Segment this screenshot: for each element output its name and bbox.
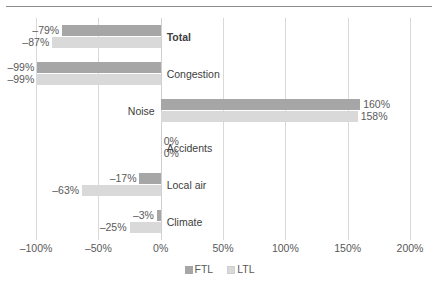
gridline (285, 18, 286, 240)
x-tick-label: 200% (397, 242, 424, 254)
x-axis: –100%–50%0%50%100%150%200% (36, 242, 410, 258)
value-label: –87% (22, 37, 52, 48)
value-label: –79% (32, 25, 62, 36)
value-label: 158% (358, 111, 388, 122)
x-tick-label: 150% (334, 242, 361, 254)
bar-ftl (139, 173, 160, 184)
x-tick-label: 100% (272, 242, 299, 254)
legend-item-ltl[interactable]: LTL (227, 263, 254, 275)
legend-label: LTL (237, 263, 254, 275)
chart-legend: FTLLTL (0, 263, 439, 275)
value-label: –63% (52, 185, 82, 196)
value-label: –3% (133, 210, 157, 221)
value-label: –99% (7, 74, 37, 85)
bar-ftl (161, 99, 360, 110)
legend-label: FTL (195, 263, 214, 275)
bar-ltl (161, 111, 358, 122)
x-tick-label: 0% (153, 242, 168, 254)
value-label: –99% (7, 62, 37, 73)
gridline (348, 18, 349, 240)
value-label: 160% (360, 99, 390, 110)
category-label: Congestion (161, 68, 220, 80)
plot-area: –79%–87%Total–99%–99%Congestion160%158%N… (36, 18, 410, 240)
value-label: –17% (110, 173, 140, 184)
gridline (410, 18, 411, 240)
bar-ltl (52, 37, 160, 48)
bar-ltl (37, 74, 160, 85)
value-label: –25% (100, 222, 130, 233)
category-label: Total (161, 31, 191, 43)
x-tick-label: –100% (20, 242, 53, 254)
top-divider (6, 6, 432, 7)
bar-ftl (62, 25, 160, 36)
zero-line (161, 18, 162, 240)
gridline (223, 18, 224, 240)
category-label: Accidents (161, 142, 213, 154)
category-label: Local air (161, 179, 207, 191)
bar-ltl (130, 222, 161, 233)
legend-swatch-icon (185, 266, 193, 274)
legend-swatch-icon (227, 266, 235, 274)
gridline (98, 18, 99, 240)
category-label: Noise (128, 105, 161, 117)
x-tick-label: –50% (85, 242, 112, 254)
gridline (36, 18, 37, 240)
category-label: Climate (161, 216, 203, 228)
bar-ltl (82, 185, 161, 196)
bar-ftl (37, 62, 160, 73)
chart-figure: –79%–87%Total–99%–99%Congestion160%158%N… (0, 0, 439, 287)
legend-item-ftl[interactable]: FTL (185, 263, 214, 275)
x-tick-label: 50% (212, 242, 233, 254)
